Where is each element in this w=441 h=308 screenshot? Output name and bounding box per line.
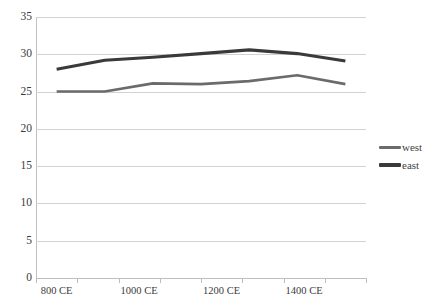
legend-label-west: west [401, 142, 422, 153]
series-line-west [57, 75, 346, 91]
chart-legend: west east [379, 138, 441, 174]
series-line-east [57, 50, 346, 69]
legend-item-east[interactable]: east [379, 156, 441, 174]
legend-swatch-west-icon [379, 146, 401, 149]
legend-label-east: east [401, 160, 419, 171]
legend-item-west[interactable]: west [379, 138, 441, 156]
legend-swatch-east-icon [379, 163, 401, 167]
line-chart: 05101520253035 800 CE1000 CE1200 CE1400 … [0, 0, 441, 308]
series-lines [0, 0, 441, 308]
